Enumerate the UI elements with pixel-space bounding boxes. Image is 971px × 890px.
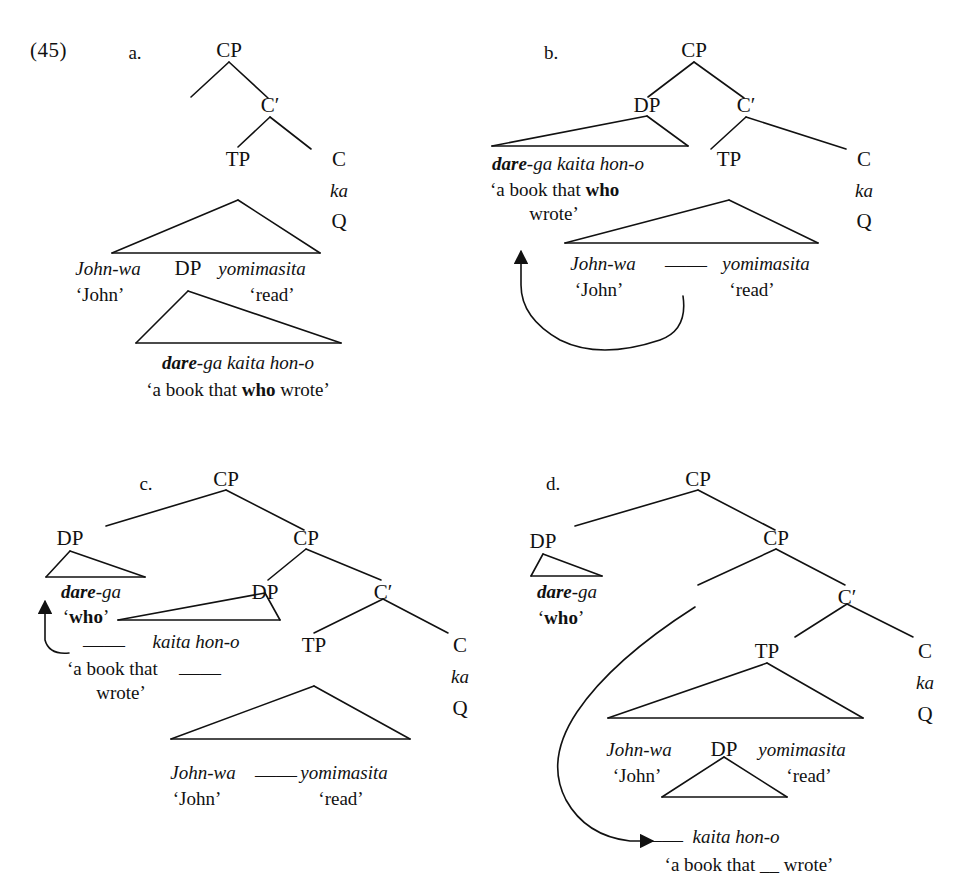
tree-b-c-q: Q (856, 211, 871, 232)
tree-a-node-tp: TP (226, 149, 251, 170)
tree-d-term-kaita-hon-o: kaita hon-o (692, 827, 779, 846)
tree-d-letter: d. (546, 474, 560, 493)
tree-c-node-cbar: C′ (374, 582, 393, 603)
tree-d-gloss-book-that-wrote: ‘a book that __ wrote’ (665, 855, 834, 874)
tree-b-node-dp: DP (634, 95, 661, 116)
tree-b-term-john-wa: John-wa (570, 254, 635, 273)
tree-c-term-kaita-hon-o: kaita hon-o (152, 632, 239, 651)
tree-c-node-tp: TP (302, 635, 327, 656)
tree-c-ga: -ga (96, 581, 121, 602)
tree-b-gloss-read: ‘read’ (729, 280, 774, 299)
tree-d-dare: dare (537, 581, 572, 602)
tree-a-dare: dare (162, 352, 197, 373)
tree-d-node-c: C (918, 641, 932, 662)
tree-b-gloss-wrote: wrote’ (529, 204, 579, 223)
tree-a-term-dare-ga-kaita-hon-o: dare-ga kaita hon-o (162, 353, 314, 372)
tree-c-term-john-wa: John-wa (170, 763, 235, 782)
figure-canvas: (45) a. CP C′ TP C ka Q John-wa ‘John’ D… (0, 0, 971, 890)
tree-b-node-cbar: C′ (737, 95, 756, 116)
tree-d-node-dp-outer: DP (530, 531, 557, 552)
tree-d-term-yomimasita: yomimasita (758, 740, 846, 759)
tree-b-term-yomimasita: yomimasita (722, 254, 810, 273)
tree-c-c-q: Q (452, 698, 467, 719)
tree-b-letter: b. (544, 43, 558, 62)
tree-b-gap-trace: —— (665, 255, 707, 276)
tree-d-c-ka: ka (916, 673, 934, 692)
tree-b-gloss-john: ‘John’ (575, 280, 624, 299)
tree-d-gap-trace-dp: —— (641, 830, 683, 851)
tree-c-node-cp-inner: CP (293, 528, 319, 549)
tree-a-node-c: C (332, 149, 346, 170)
tree-c-dare: dare (61, 581, 96, 602)
tree-c-gloss-read: ‘read’ (318, 789, 363, 808)
tree-b-dare: dare (492, 153, 527, 174)
tree-d-gloss-who: ‘who’ (538, 608, 584, 627)
tree-a-ga-kaita-hon-o: -ga kaita hon-o (197, 352, 314, 373)
tree-c-gap-trace-gloss: —— (179, 663, 221, 684)
tree-a-gloss-john: ‘John’ (76, 285, 125, 304)
tree-a-term-yomimasita: yomimasita (218, 259, 306, 278)
tree-a-node-cbar: C′ (261, 95, 280, 116)
tree-c-gloss-wrote: wrote’ (96, 683, 146, 702)
tree-d-c-q: Q (917, 704, 932, 725)
tree-c-gap-trace-tp: —— (255, 765, 297, 786)
tree-b-who: who (586, 179, 620, 200)
tree-d-gloss-john: ‘John’ (613, 766, 662, 785)
tree-a-gloss-book-that-who-wrote: ‘a book that who wrote’ (146, 380, 330, 399)
tree-a-c-q: Q (331, 211, 346, 232)
tree-d-who: who (544, 607, 578, 628)
tree-d-node-cp-outer: CP (685, 469, 711, 490)
tree-a-letter: a. (128, 43, 141, 62)
tree-c-letter: c. (139, 474, 152, 493)
tree-c-node-c: C (453, 635, 467, 656)
tree-b-c-ka: ka (855, 181, 873, 200)
tree-d-term-dare-ga: dare-ga (537, 582, 597, 601)
tree-d-node-cp-inner: CP (763, 528, 789, 549)
tree-c-node-cp-outer: CP (213, 469, 239, 490)
tree-a-node-cp: CP (216, 40, 242, 61)
tree-a-gloss-read: ‘read’ (249, 285, 294, 304)
tree-d-node-dp-inner: DP (711, 739, 738, 760)
tree-d-gloss-read: ‘read’ (786, 766, 831, 785)
tree-a-who: who (242, 379, 276, 400)
tree-b-term-dare-ga-kaita-hon-o: dare-ga kaita hon-o (492, 154, 644, 173)
tree-d-ga: -ga (572, 581, 597, 602)
tree-d-node-tp: TP (755, 641, 780, 662)
tree-d-branches (531, 490, 913, 841)
tree-a-branches (112, 62, 341, 343)
tree-c-gap-trace-dp: —— (83, 635, 125, 656)
tree-c-c-ka: ka (451, 667, 469, 686)
tree-c-term-dare-ga: dare-ga (61, 582, 121, 601)
tree-c-gloss-who: ‘who’ (63, 607, 109, 626)
tree-b-ga-kaita-hon-o: -ga kaita hon-o (527, 153, 644, 174)
tree-a-term-john-wa: John-wa (75, 259, 140, 278)
figure-number: (45) (30, 40, 67, 61)
tree-c-term-yomimasita: yomimasita (300, 763, 388, 782)
tree-b-gloss-book-that-who: ‘a book that who (490, 180, 619, 199)
tree-d-node-cbar: C′ (838, 587, 857, 608)
tree-c-node-dp-inner: DP (252, 582, 279, 603)
tree-a-node-dp: DP (175, 258, 202, 279)
tree-d-term-john-wa: John-wa (606, 740, 671, 759)
tree-b-node-c: C (857, 149, 871, 170)
tree-a-c-ka: ka (330, 181, 348, 200)
tree-c-who: who (69, 606, 103, 627)
tree-c-node-dp-outer: DP (57, 528, 84, 549)
tree-c-gloss-john: ‘John’ (173, 789, 222, 808)
tree-c-gloss-book-that: ‘a book that (67, 659, 158, 678)
tree-b-node-tp: TP (717, 149, 742, 170)
tree-b-node-cp: CP (681, 40, 707, 61)
